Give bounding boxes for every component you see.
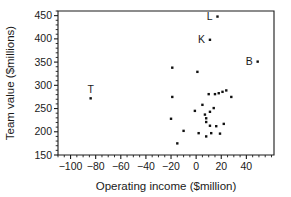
data-point <box>219 132 221 134</box>
point-label-l: L <box>207 10 213 22</box>
x-tick-label: −60 <box>112 160 130 172</box>
x-tick-label: −40 <box>137 160 155 172</box>
y-tick-label: 250 <box>34 102 52 114</box>
data-point <box>170 118 172 120</box>
y-tick-label: 400 <box>34 32 52 44</box>
data-point <box>208 93 210 95</box>
data-point <box>201 104 203 106</box>
data-point <box>209 39 211 41</box>
y-tick-label: 450 <box>34 9 52 21</box>
point-label-t: T <box>87 83 94 95</box>
data-point <box>205 121 207 123</box>
data-point <box>210 132 212 134</box>
data-point-labels: TLKB <box>87 10 252 95</box>
data-point <box>204 113 206 115</box>
data-point <box>218 92 220 94</box>
x-axis-title: Operating income ($million) <box>96 180 237 192</box>
point-label-k: K <box>198 33 205 45</box>
point-label-b: B <box>246 55 253 67</box>
data-point <box>182 130 184 132</box>
y-axis-tick-labels: 150200250300350400450 <box>34 9 52 160</box>
data-point <box>225 89 227 91</box>
data-point <box>171 66 173 68</box>
data-point-group <box>89 15 258 144</box>
data-point <box>256 60 258 62</box>
y-tick-label: 350 <box>34 56 52 68</box>
y-axis-title: Team value ($millions) <box>4 26 16 141</box>
data-point <box>205 135 207 137</box>
y-axis-ticks <box>54 11 58 155</box>
data-point <box>223 123 225 125</box>
data-point <box>171 96 173 98</box>
data-point <box>216 15 218 17</box>
x-axis-tick-labels: −100−80−60−40−2002040 <box>59 160 253 172</box>
data-point <box>230 96 232 98</box>
x-tick-label: −100 <box>59 160 83 172</box>
y-tick-label: 150 <box>34 149 52 161</box>
data-point <box>209 125 211 127</box>
x-tick-label: −20 <box>162 160 180 172</box>
data-point <box>209 111 211 113</box>
x-tick-label: 40 <box>241 160 253 172</box>
data-point <box>213 107 215 109</box>
data-point <box>176 142 178 144</box>
data-point <box>196 71 198 73</box>
data-point <box>197 132 199 134</box>
data-point <box>194 110 196 112</box>
x-tick-label: −80 <box>87 160 105 172</box>
data-point <box>89 97 91 99</box>
data-point <box>215 125 217 127</box>
data-point <box>205 117 207 119</box>
y-tick-label: 200 <box>34 125 52 137</box>
scatter-plot-figure: −100−80−60−40−2002040 150200250300350400… <box>0 0 291 197</box>
x-tick-label: 20 <box>215 160 227 172</box>
x-tick-label: 0 <box>193 160 199 172</box>
data-point <box>221 91 223 93</box>
x-axis-ticks <box>58 155 271 159</box>
y-tick-label: 300 <box>34 79 52 91</box>
data-point <box>214 93 216 95</box>
chart-canvas: −100−80−60−40−2002040 150200250300350400… <box>0 0 291 197</box>
